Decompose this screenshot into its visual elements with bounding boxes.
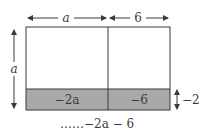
band-height-label: −2 xyxy=(182,93,200,107)
height-a-label: a xyxy=(10,62,17,76)
shaded-band xyxy=(26,89,170,110)
area-model-diagram: a 6 a −2a −6 −2 ……−2a − 6 xyxy=(0,0,207,138)
width-6-label: 6 xyxy=(134,11,142,25)
cell-minus-6: −6 xyxy=(130,93,148,107)
cell-minus-2a: −2a xyxy=(55,93,80,107)
width-a-label: a xyxy=(62,11,69,25)
footer-expression: ……−2a − 6 xyxy=(60,117,134,131)
